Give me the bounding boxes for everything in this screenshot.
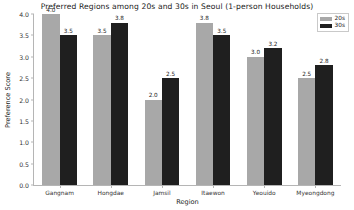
x-axis-label: Region: [176, 198, 199, 206]
bar-value-label: 3.5: [217, 28, 226, 34]
x-axis-tick-label-hongdae: Hongdae: [97, 190, 123, 196]
x-axis-tick-mark: [315, 185, 316, 188]
legend-label: 20s: [335, 16, 345, 22]
bar-group: 2.02.5Jamsil: [136, 14, 187, 185]
bar-value-label: 3.5: [64, 28, 73, 34]
plot-area: 0.00.51.01.52.02.53.03.54.04.03.5Gangnam…: [33, 14, 341, 186]
x-axis-tick-mark: [213, 185, 214, 188]
bar-value-label: 2.8: [320, 58, 329, 64]
bar-yeouido-20s: 3.0: [247, 57, 264, 185]
bar-group: 4.03.5Gangnam: [34, 14, 85, 185]
legend-swatch-icon-20s: [320, 17, 332, 21]
bar-gangnam-20s: 4.0: [42, 14, 59, 185]
bar-group: 3.03.2Yeouido: [239, 14, 290, 185]
bar-myeongdong-20s: 2.5: [298, 78, 315, 185]
bar-hongdae-30s: 3.8: [111, 23, 128, 185]
x-axis-tick-label-myeongdong: Myeongdong: [296, 190, 334, 196]
x-axis-tick-mark: [264, 185, 265, 188]
bar-value-label: 2.5: [166, 71, 175, 77]
legend-item-30s[interactable]: 30s: [320, 23, 345, 29]
x-axis-tick-label-yeouido: Yeouido: [253, 190, 276, 196]
x-axis-tick-label-gangnam: Gangnam: [45, 190, 74, 196]
x-axis-tick-mark: [111, 185, 112, 188]
bar-itaewon-20s: 3.8: [196, 23, 213, 185]
x-axis-tick-mark: [162, 185, 163, 188]
plot-inner: 0.00.51.01.52.02.53.03.54.04.03.5Gangnam…: [34, 14, 341, 185]
x-axis-tick-label-itaewon: Itaewon: [201, 190, 224, 196]
bar-value-label: 2.5: [302, 71, 311, 77]
bar-value-label: 3.8: [200, 15, 209, 21]
bar-value-label: 2.0: [149, 92, 158, 98]
x-axis-tick-mark: [60, 185, 61, 188]
bar-myeongdong-30s: 2.8: [315, 65, 332, 185]
x-axis-tick-label-jamsil: Jamsil: [153, 190, 170, 196]
bar-value-label: 3.8: [115, 15, 124, 21]
bar-chart-figure: Preferred Regions among 20s and 30s in S…: [0, 0, 354, 210]
bar-group: 3.53.8Hongdae: [85, 14, 136, 185]
bar-group: 2.52.8Myeongdong: [290, 14, 341, 185]
legend-label: 30s: [335, 23, 345, 29]
bar-yeouido-30s: 3.2: [264, 48, 281, 185]
bar-value-label: 3.2: [268, 41, 277, 47]
bar-value-label: 4.0: [46, 7, 55, 13]
bar-itaewon-30s: 3.5: [213, 35, 230, 185]
bar-jamsil-30s: 2.5: [162, 78, 179, 185]
chart-legend: 20s30s: [317, 13, 349, 32]
bar-value-label: 3.5: [97, 28, 106, 34]
bar-gangnam-30s: 3.5: [60, 35, 77, 185]
y-axis-label: Preference Score: [4, 72, 12, 128]
bar-hongdae-20s: 3.5: [93, 35, 110, 185]
legend-swatch-icon-30s: [320, 24, 332, 28]
bar-jamsil-20s: 2.0: [145, 100, 162, 186]
legend-item-20s[interactable]: 20s: [320, 16, 345, 22]
bar-group: 3.83.5Itaewon: [188, 14, 239, 185]
bar-value-label: 3.0: [251, 49, 260, 55]
